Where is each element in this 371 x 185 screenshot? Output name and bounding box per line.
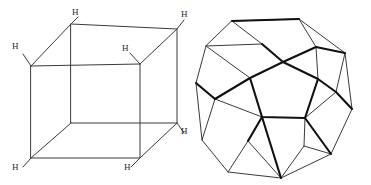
dodecahedron-spoke-10	[281, 146, 304, 178]
cube-bond-stub-back-top-right	[177, 20, 184, 29]
atom-label-h-front-bottom-right: H	[124, 163, 131, 172]
cube-connect-top-left	[31, 24, 71, 66]
dodecahedron-mid-link-5	[304, 118, 305, 146]
atom-label-h-front-top-right: H	[122, 44, 129, 53]
molecular-figure-canvas: H H H H H H H	[0, 0, 371, 185]
cube-connect-bottom-left	[31, 123, 71, 158]
dodecahedron-bold-spoke-right-outer	[336, 92, 352, 109]
dodecahedron-mid-link-3	[316, 47, 318, 79]
dodecahedron-bold-spoke-top	[262, 44, 283, 62]
atom-label-h-front-bottom-left: H	[12, 163, 19, 172]
dodecahedron-bold-spoke-bottom-right	[262, 117, 281, 178]
cube-bond-stub-back-top-left	[71, 17, 78, 24]
dodecahedron-spoke-1	[232, 21, 262, 44]
dodecahedron-group	[196, 19, 352, 178]
dodecahedron-bold-spoke-left	[215, 78, 250, 99]
atom-label-h-back-top-left: H	[72, 8, 79, 17]
dodecahedron-spoke-9	[206, 44, 262, 46]
cube-bond-stub-front-bottom-right	[131, 158, 140, 167]
dodecahedron-spoke-2	[299, 19, 316, 47]
cube-group	[23, 17, 184, 167]
dodecahedron-spoke-6	[228, 141, 248, 172]
dodecahedron-bold-edge-top-cap	[232, 19, 299, 21]
dodecahedron-mid-link-8	[215, 99, 262, 117]
figure-vector-layer	[0, 0, 371, 185]
atom-label-h-front-top-left: H	[12, 42, 19, 51]
dodecahedron-mid-link-9	[206, 46, 250, 78]
atom-label-h-back-top-right: H	[181, 10, 188, 19]
cube-bond-stub-front-bottom-left	[23, 158, 31, 167]
cube-bond-stub-front-top-right	[130, 53, 140, 64]
dodecahedron-bold-spoke-right	[318, 79, 336, 92]
cube-bond-stub-front-top-left	[23, 54, 31, 66]
cube-connect-bottom-right	[140, 123, 177, 158]
dodecahedron-bold-spoke-left-outer	[196, 83, 215, 99]
dodecahedron-bold-edge-lower-right	[305, 118, 331, 154]
cube-connect-top-right	[140, 29, 177, 64]
dodecahedron-spoke-3	[336, 53, 345, 92]
cube-back-face-edges	[71, 24, 177, 123]
dodecahedron-bold-spoke-bottom	[248, 117, 262, 141]
dodecahedron-bold-spoke-top-right	[283, 47, 316, 62]
dodecahedron-inner-pentagon	[250, 62, 318, 118]
atom-label-h-back-bottom-right: H	[181, 127, 188, 136]
dodecahedron-spoke-7	[202, 99, 215, 140]
